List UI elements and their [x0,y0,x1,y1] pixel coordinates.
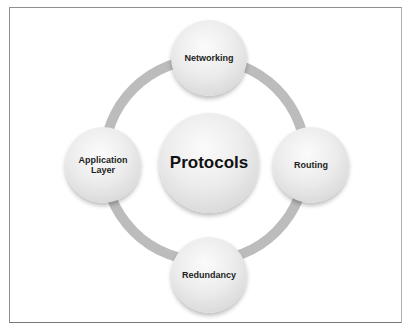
center-node-protocols: Protocols [159,113,259,213]
node-networking: Networking [171,20,247,96]
node-label: Redundancy [182,270,236,280]
node-label: Networking [184,53,233,63]
node-application-layer: Application Layer [65,127,141,203]
center-node-label: Protocols [170,153,248,173]
node-redundancy: Redundancy [171,237,247,313]
node-routing: Routing [273,127,349,203]
node-label: Routing [294,160,328,170]
node-label: Application Layer [71,155,135,176]
